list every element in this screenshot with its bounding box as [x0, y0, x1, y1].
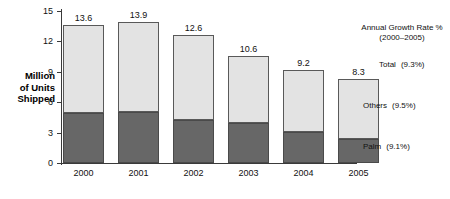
legend-entry-others-rate: (9.5%)	[392, 101, 416, 110]
x-axis-tick-label-2000: 2000	[63, 168, 104, 178]
legend-entry-total-label: Total	[379, 60, 396, 69]
x-axis-tick-label-2003: 2003	[228, 168, 269, 178]
y-axis-tick: 0	[57, 163, 62, 164]
y-axis-title-line-3: Shipped	[0, 93, 55, 105]
legend-entry-total-rate: (9.3%)	[401, 60, 425, 69]
bar-2004[interactable]: 9.2	[283, 70, 324, 163]
bar-2003[interactable]: 10.6	[228, 56, 269, 163]
bar-value-label-2004: 9.2	[297, 58, 310, 68]
y-axis-tick: 6	[57, 102, 62, 103]
stacked-bar-chart: Million of Units Shipped 0369121513.613.…	[0, 0, 450, 199]
x-axis-line	[61, 163, 357, 164]
legend-entry-others: Others(9.5%)	[363, 101, 416, 110]
bar-segment-palm-2001[interactable]	[118, 112, 159, 163]
bar-segment-palm-2000[interactable]	[63, 113, 104, 163]
y-axis-tick: 9	[57, 72, 62, 73]
legend-entry-palm: Palm(9.1%)	[363, 142, 410, 151]
legend-title-line-1: Annual Growth Rate %	[358, 23, 446, 33]
y-axis-title-line-2: of Units	[0, 82, 55, 94]
bar-2001[interactable]: 13.9	[118, 22, 159, 163]
bar-segment-palm-2002[interactable]	[173, 120, 214, 163]
y-axis-title-line-1: Million	[0, 70, 55, 82]
bar-value-label-2000: 13.6	[75, 13, 93, 23]
y-axis-tick-label: 0	[48, 158, 53, 168]
x-axis-tick-label-2002: 2002	[173, 168, 214, 178]
bar-value-label-2001: 13.9	[130, 10, 148, 20]
y-axis-title: Million of Units Shipped	[0, 70, 55, 105]
y-axis-tick-label: 6	[48, 97, 53, 107]
legend-entry-others-label: Others	[363, 101, 387, 110]
bar-2000[interactable]: 13.6	[63, 25, 104, 163]
bar-segment-others-2002[interactable]	[173, 35, 214, 120]
y-axis-tick: 15	[57, 11, 62, 12]
y-axis-tick-label: 15	[43, 6, 53, 16]
legend-entry-palm-rate: (9.1%)	[386, 142, 410, 151]
plot-area: 0369121513.613.912.610.69.28.3	[62, 11, 355, 163]
legend-title-line-2: (2000–2005)	[358, 33, 446, 43]
y-axis-tick: 12	[57, 41, 62, 42]
bar-segment-others-2004[interactable]	[283, 70, 324, 132]
bar-segment-others-2003[interactable]	[228, 56, 269, 124]
bar-segment-others-2001[interactable]	[118, 22, 159, 112]
legend: Annual Growth Rate % (2000–2005)	[358, 23, 450, 43]
bar-value-label-2003: 10.6	[240, 44, 258, 54]
legend-entry-palm-label: Palm	[363, 142, 381, 151]
bar-value-label-2005: 8.3	[352, 67, 365, 77]
bar-segment-palm-2004[interactable]	[283, 132, 324, 163]
y-axis-tick-label: 3	[48, 128, 53, 138]
x-axis-tick-label-2004: 2004	[283, 168, 324, 178]
bar-segment-palm-2003[interactable]	[228, 123, 269, 163]
y-axis-tick: 3	[57, 133, 62, 134]
bar-2002[interactable]: 12.6	[173, 35, 214, 163]
x-axis-tick-label-2005: 2005	[338, 168, 379, 178]
y-axis-tick-label: 12	[43, 36, 53, 46]
bar-value-label-2002: 12.6	[185, 23, 203, 33]
x-axis-tick-label-2001: 2001	[118, 168, 159, 178]
y-axis-tick-label: 9	[48, 67, 53, 77]
bar-segment-others-2000[interactable]	[63, 25, 104, 113]
legend-entry-total: Total(9.3%)	[379, 60, 424, 69]
